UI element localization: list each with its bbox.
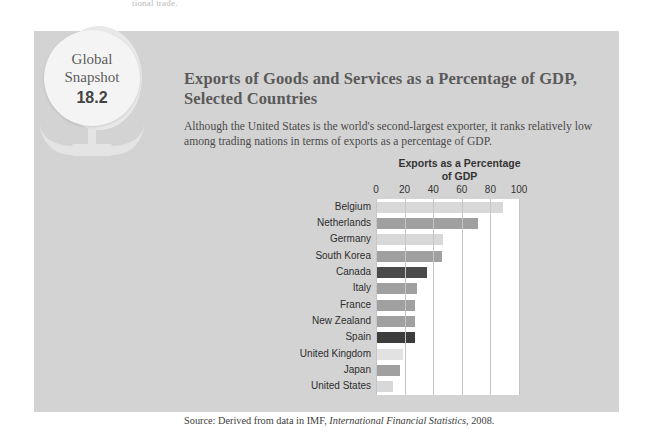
gridline bbox=[433, 199, 434, 395]
bar-row: South Korea bbox=[376, 251, 519, 262]
category-label: Spain bbox=[345, 331, 376, 342]
badge-line1: Global bbox=[72, 50, 113, 68]
chart-title-line2: of GDP bbox=[442, 170, 478, 182]
bar bbox=[376, 300, 415, 311]
category-label: Italy bbox=[353, 282, 376, 293]
bar bbox=[376, 202, 503, 213]
x-tick-label: 20 bbox=[399, 184, 410, 195]
source-suffix: , 2008. bbox=[466, 415, 494, 426]
badge-line2: Snapshot bbox=[64, 68, 119, 86]
page-text-fragment: tional trade. bbox=[132, 0, 178, 8]
bar-row: France bbox=[376, 300, 519, 311]
gridline bbox=[462, 199, 463, 395]
bar bbox=[376, 381, 393, 392]
gridline bbox=[490, 199, 491, 395]
bar-row: New Zealand bbox=[376, 316, 519, 327]
bar-row: Spain bbox=[376, 332, 519, 343]
bar bbox=[376, 332, 415, 343]
x-tick-label: 0 bbox=[373, 184, 379, 195]
badge-number: 18.2 bbox=[76, 89, 107, 107]
category-label: United States bbox=[311, 380, 376, 391]
bar-rows: BelgiumNetherlandsGermanySouth KoreaCana… bbox=[376, 199, 519, 395]
bar bbox=[376, 283, 417, 294]
global-snapshot-badge: Global Snapshot 18.2 bbox=[38, 24, 156, 160]
gridline bbox=[405, 199, 406, 395]
bar bbox=[376, 365, 400, 376]
category-label: Belgium bbox=[335, 201, 376, 212]
bar bbox=[376, 251, 442, 262]
bar-row: Netherlands bbox=[376, 218, 519, 229]
bar-row: United States bbox=[376, 381, 519, 392]
globe-icon: Global Snapshot 18.2 bbox=[44, 30, 140, 126]
x-axis-ticks: 020406080100 bbox=[376, 184, 528, 197]
bar-row: Italy bbox=[376, 283, 519, 294]
bar-row: Germany bbox=[376, 234, 519, 245]
plot-area: BelgiumNetherlandsGermanySouth KoreaCana… bbox=[376, 199, 519, 395]
globe-neck-icon bbox=[88, 124, 96, 146]
bar bbox=[376, 316, 415, 327]
source-note: Source: Derived from data in IMF, Intern… bbox=[184, 415, 494, 426]
chart-container: Exports as a Percentage of GDP 020406080… bbox=[184, 157, 584, 407]
category-label: France bbox=[340, 299, 376, 310]
category-label: Japan bbox=[344, 364, 376, 375]
category-label: United Kingdom bbox=[300, 348, 376, 359]
x-tick-label: 80 bbox=[485, 184, 496, 195]
chart-title: Exports as a Percentage of GDP bbox=[372, 157, 547, 182]
x-tick-label: 60 bbox=[456, 184, 467, 195]
source-publication: International Financial Statistics bbox=[329, 415, 466, 426]
gridline bbox=[376, 199, 377, 395]
bar bbox=[376, 267, 427, 278]
bar-row: Japan bbox=[376, 365, 519, 376]
bar-row: Belgium bbox=[376, 202, 519, 213]
gridline bbox=[519, 199, 520, 395]
bar-row: Canada bbox=[376, 267, 519, 278]
category-label: Canada bbox=[336, 266, 376, 277]
bar-row: United Kingdom bbox=[376, 349, 519, 360]
category-label: Germany bbox=[330, 233, 376, 244]
globe-base-icon bbox=[72, 144, 112, 156]
panel-header: Exports of Goods and Services as a Perce… bbox=[184, 69, 604, 149]
category-label: New Zealand bbox=[312, 315, 376, 326]
chart-title-line1: Exports as a Percentage bbox=[399, 157, 521, 169]
x-tick-label: 40 bbox=[428, 184, 439, 195]
category-label: South Korea bbox=[315, 250, 376, 261]
source-prefix: Source: Derived from data in IMF, bbox=[184, 415, 329, 426]
x-tick-label: 100 bbox=[511, 184, 528, 195]
bar bbox=[376, 349, 403, 360]
category-label: Netherlands bbox=[317, 217, 376, 228]
page-title: Exports of Goods and Services as a Perce… bbox=[184, 69, 604, 109]
panel-subtitle: Although the United States is the world'… bbox=[184, 119, 604, 149]
